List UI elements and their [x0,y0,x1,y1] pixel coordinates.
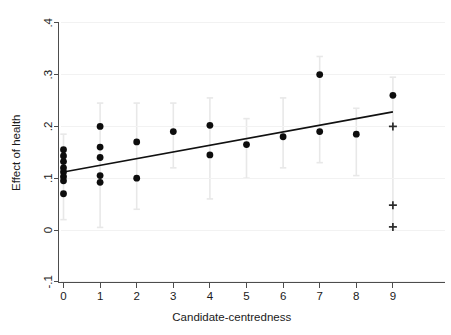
data-point-plus [389,201,397,209]
y-tick-label: .3 [42,70,54,80]
data-point-circle [207,151,214,158]
plot-canvas: -.10.1.2.3.40123456789Candidate-centredn… [0,0,451,335]
x-tick-label: 3 [170,290,176,302]
y-tick-label: -.1 [42,275,54,288]
x-tick-label: 6 [280,290,286,302]
data-point-circle [133,175,140,182]
x-tick-label: 7 [316,290,322,302]
data-point-circle [316,71,323,78]
regression-line [64,112,393,172]
data-point-circle [280,133,287,140]
y-axis-title: Effect of health [10,114,22,191]
x-tick-label: 9 [390,290,396,302]
data-point-circle [133,139,140,146]
x-tick-label: 1 [97,290,103,302]
y-tick-label: .2 [42,122,54,132]
regression-line-group [64,112,393,172]
x-tick-label: 0 [60,290,66,302]
error-bars-group [60,56,396,230]
data-point-circle [390,92,397,99]
data-point-circle [97,172,104,179]
data-point-circle [60,146,67,153]
data-point-circle [207,122,214,129]
data-point-circle [97,179,104,186]
data-markers-group [60,71,397,231]
data-point-circle [60,177,67,184]
data-point-circle [97,144,104,151]
x-axis-title: Candidate-centredness [172,311,291,323]
x-tick-label: 5 [243,290,249,302]
y-tick-label: 0 [42,227,54,233]
y-tick-label: .4 [42,17,54,27]
data-point-circle [353,131,360,138]
x-tick-label: 2 [133,290,139,302]
axis-labels-group: -.10.1.2.3.40123456789Candidate-centredn… [10,17,396,322]
data-point-circle [97,123,104,130]
scatter-plot-figure: -.10.1.2.3.40123456789Candidate-centredn… [0,0,451,335]
data-point-plus [389,122,397,130]
axes-group [54,23,446,288]
data-point-circle [97,154,104,161]
data-point-circle [243,141,250,148]
data-point-circle [60,190,67,197]
y-tick-label: .1 [42,173,54,183]
data-point-circle [60,158,67,165]
gridlines-group [61,23,446,282]
data-point-circle [170,128,177,135]
data-point-circle [316,128,323,135]
x-tick-label: 4 [207,290,214,302]
x-tick-label: 8 [353,290,359,302]
